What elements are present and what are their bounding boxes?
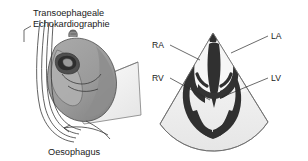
label-lv: LV bbox=[271, 73, 281, 83]
title-line-1: Transoephageale bbox=[33, 8, 104, 18]
tee-figure: Transoephageale Echokardiographie Oesoph… bbox=[0, 0, 308, 161]
label-la: LA bbox=[271, 31, 282, 41]
esophagus-label: Oesophagus bbox=[48, 147, 101, 157]
label-rv: RV bbox=[152, 73, 164, 83]
label-ra: RA bbox=[152, 40, 164, 50]
title-line-2: Echokardiographie bbox=[33, 19, 110, 29]
